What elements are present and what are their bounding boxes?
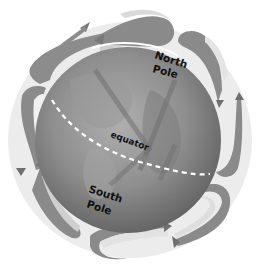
cell-top-center <box>95 16 174 46</box>
circulation-diagram: North Pole equator South Pole <box>0 0 257 264</box>
diagram-canvas: North Pole equator South Pole <box>0 0 257 264</box>
